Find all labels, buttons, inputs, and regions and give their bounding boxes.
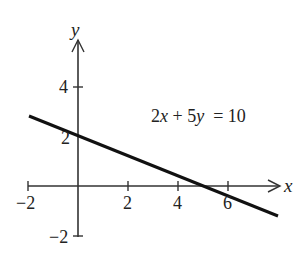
y-tick-label-m2: −2 xyxy=(49,227,68,247)
x-tick-label-4: 4 xyxy=(173,193,182,213)
graph-figure: y x −2 2 4 6 4 2 −2 2x + 5y = 10 xyxy=(0,0,307,253)
y-axis-label: y xyxy=(69,19,80,40)
y-tick-label-4: 4 xyxy=(59,77,68,97)
coordinate-plane: y x −2 2 4 6 4 2 −2 2x + 5y = 10 xyxy=(0,0,307,253)
x-axis-label: x xyxy=(283,175,293,196)
equation-annotation: 2x + 5y = 10 xyxy=(151,106,246,126)
x-tick-label-6: 6 xyxy=(223,193,232,213)
x-tick-label-m2: −2 xyxy=(16,193,35,213)
x-tick-label-2: 2 xyxy=(123,193,132,213)
y-tick-label-2: 2 xyxy=(61,128,70,148)
